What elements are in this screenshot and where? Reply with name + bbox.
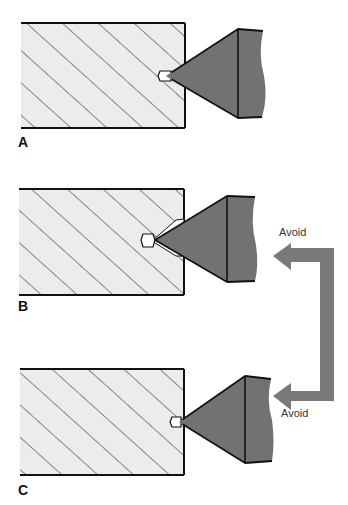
panel-label-c: C: [18, 482, 28, 498]
panel-b: [19, 189, 257, 295]
pilot-tip-b: [141, 234, 155, 247]
machining-diagram: [0, 0, 348, 505]
tool-cone-c: [179, 376, 245, 463]
avoid-label-top: Avoid: [279, 226, 306, 238]
tool-shank-b: [227, 196, 257, 282]
avoid-label-bottom: Avoid: [281, 407, 308, 419]
tool-shank-a: [238, 29, 266, 118]
avoid-arrow: [273, 243, 334, 410]
tool-shank-c: [245, 376, 274, 463]
panel-label-a: A: [18, 134, 28, 150]
workpiece-c: [20, 369, 184, 475]
panel-a: [21, 23, 266, 128]
panel-label-b: B: [18, 298, 28, 314]
panel-c: [20, 369, 274, 475]
